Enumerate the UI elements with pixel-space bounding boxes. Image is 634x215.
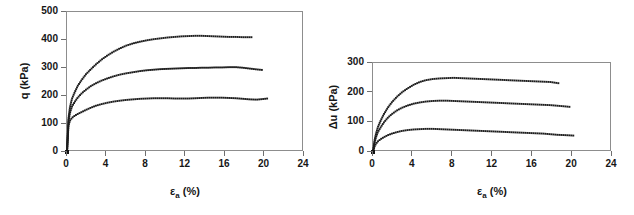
x-tick-label: 20: [258, 159, 269, 169]
axis-ticks-du: [317, 0, 634, 215]
y-tick-label: 400: [41, 34, 58, 44]
x-axis-title-unit: (%): [183, 185, 200, 197]
x-tick-label: 4: [409, 159, 415, 169]
x-axis-title-subscript: a: [175, 191, 179, 200]
y-tick-label: 200: [41, 90, 58, 100]
x-tick-label: 12: [179, 159, 190, 169]
y-tick-label: 0: [52, 146, 58, 156]
x-tick-label: 8: [449, 159, 455, 169]
y-tick-label: 100: [41, 118, 58, 128]
y-tick-label: 300: [347, 57, 364, 67]
x-tick-label: 4: [103, 159, 109, 169]
x-axis-title-unit: (%): [490, 185, 507, 197]
x-tick-label: 20: [566, 159, 577, 169]
x-tick-label: 8: [142, 159, 148, 169]
x-tick-label: 24: [605, 159, 616, 169]
chart-panel-q: 010020030040050004812162024 q (kPa) εa (…: [0, 0, 317, 215]
y-axis-title-du: Δu (kPa): [328, 85, 339, 130]
x-axis-title-du: εa (%): [477, 186, 507, 200]
chart-panel-du: 010020030004812162024 Δu (kPa) εa (%): [317, 0, 634, 215]
x-axis-title-subscript: a: [482, 191, 486, 200]
figure-container: 010020030040050004812162024 q (kPa) εa (…: [0, 0, 634, 215]
x-tick-label: 0: [63, 159, 69, 169]
y-tick-label: 200: [347, 87, 364, 97]
y-axis-title-q: q (kPa): [19, 63, 30, 100]
y-tick-label: 100: [347, 116, 364, 126]
y-tick-label: 300: [41, 62, 58, 72]
y-tick-label: 500: [41, 6, 58, 16]
x-tick-label: 16: [526, 159, 537, 169]
x-axis-title-q: εa (%): [170, 186, 200, 200]
x-tick-label: 0: [369, 159, 375, 169]
x-tick-label: 12: [486, 159, 497, 169]
x-tick-label: 16: [218, 159, 229, 169]
x-tick-label: 24: [297, 159, 308, 169]
y-tick-label: 0: [358, 146, 364, 156]
